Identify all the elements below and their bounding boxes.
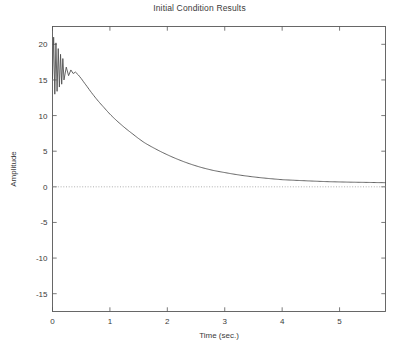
figure-canvas: Initial Condition Results 01234520151050… [0, 0, 399, 353]
y-tick-label: -10 [36, 254, 48, 263]
y-tick-label: 10 [39, 112, 48, 121]
x-tick-label: 1 [108, 317, 113, 326]
x-tick-label: 5 [337, 317, 342, 326]
plot-area: 01234520151050-5-10-15Time (sec.)Amplitu… [0, 0, 399, 353]
data-curve-group [53, 37, 386, 182]
axes-group [53, 27, 386, 312]
x-tick-label: 3 [223, 317, 228, 326]
y-tick-label: -5 [40, 218, 48, 227]
response-curve [53, 37, 386, 182]
y-axis-title: Amplitude [9, 151, 18, 187]
x-tick-label: 2 [165, 317, 170, 326]
y-tick-label: 20 [39, 40, 48, 49]
y-tick-label: -15 [36, 290, 48, 299]
tick-marks-group [53, 27, 386, 312]
plot-box-frame [53, 27, 386, 312]
y-tick-label: 15 [39, 76, 48, 85]
y-tick-label: 5 [43, 147, 48, 156]
x-axis-title: Time (sec.) [199, 331, 239, 340]
x-tick-label: 0 [50, 317, 55, 326]
y-tick-label: 0 [43, 183, 48, 192]
x-tick-label: 4 [280, 317, 285, 326]
